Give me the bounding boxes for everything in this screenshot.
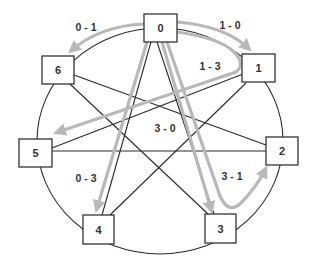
message-labels: 0 - 1 1 - 0 1 - 3 3 - 0 0 - 3 3 - 1 <box>75 19 242 184</box>
message-label-0-3: 0 - 3 <box>75 172 96 184</box>
message-label-3-1: 3 - 1 <box>221 170 242 182</box>
node-6: 6 <box>42 56 74 84</box>
node-5: 5 <box>19 139 52 167</box>
message-label-1-0: 1 - 0 <box>219 19 240 31</box>
node-label: 2 <box>279 145 285 157</box>
node-3: 3 <box>205 214 236 243</box>
node-2: 2 <box>266 137 298 165</box>
node-label: 1 <box>255 62 261 74</box>
message-label-0-1: 0 - 1 <box>75 21 96 33</box>
chord-1-5 <box>52 74 243 148</box>
node-label: 4 <box>95 224 102 236</box>
message-label-3-0: 3 - 0 <box>154 122 175 134</box>
node-label: 5 <box>32 147 38 159</box>
ring-network-diagram: 0 - 1 1 - 0 1 - 3 3 - 0 0 - 3 3 - 1 0 1 … <box>0 0 315 257</box>
message-label-1-3: 1 - 3 <box>199 60 220 72</box>
node-0: 0 <box>144 14 177 42</box>
node-label: 6 <box>55 64 61 76</box>
node-4: 4 <box>83 215 114 244</box>
chord-1-4 <box>110 83 246 215</box>
node-label: 0 <box>157 22 163 34</box>
message-path-0-4 <box>97 42 147 208</box>
chord-0-4 <box>102 42 151 215</box>
chord-6-2 <box>74 75 266 145</box>
node-label: 3 <box>217 223 223 235</box>
node-1: 1 <box>242 54 275 82</box>
